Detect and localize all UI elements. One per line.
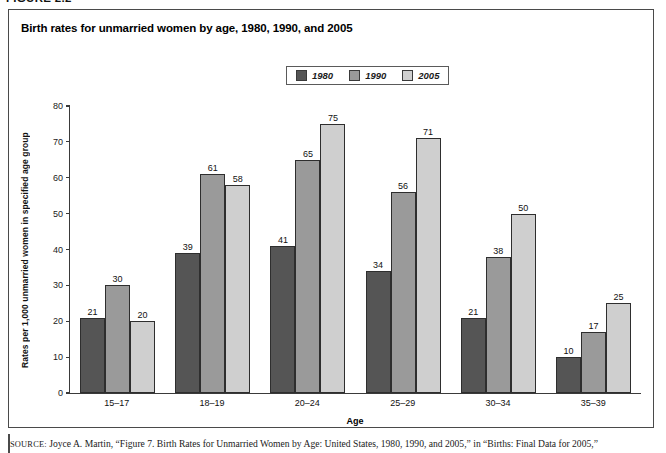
y-axis-tick: 60 bbox=[43, 173, 70, 183]
bar[interactable]: 30 bbox=[105, 285, 130, 393]
bar[interactable]: 20 bbox=[130, 321, 155, 393]
bar[interactable]: 50 bbox=[511, 214, 536, 393]
bar[interactable]: 10 bbox=[556, 357, 581, 393]
bar[interactable]: 39 bbox=[175, 253, 200, 393]
y-axis-tick-label: 60 bbox=[43, 173, 63, 183]
y-axis-tick-label: 70 bbox=[43, 137, 63, 147]
x-axis-tick-label: 20–24 bbox=[260, 398, 355, 408]
x-axis-labels: 15–1718–1920–2425–2930–3435–39 bbox=[69, 398, 641, 408]
y-axis-tick: 0 bbox=[43, 388, 70, 398]
bar[interactable]: 56 bbox=[391, 192, 416, 393]
y-axis-tick: 50 bbox=[43, 209, 70, 219]
legend-swatch-icon bbox=[349, 70, 360, 81]
y-axis-tick: 20 bbox=[43, 316, 70, 326]
y-axis-tick-label: 80 bbox=[43, 101, 63, 111]
bar[interactable]: 17 bbox=[581, 332, 606, 393]
bar-value-label: 75 bbox=[328, 113, 338, 123]
y-axis-tick-label: 40 bbox=[43, 245, 63, 255]
bar[interactable]: 58 bbox=[225, 185, 250, 393]
chart-legend: 198019902005 bbox=[286, 66, 449, 85]
x-axis-tick-label: 25–29 bbox=[355, 398, 450, 408]
legend-swatch-icon bbox=[402, 70, 413, 81]
plot-area: 01020304050607080 2130203961584165753456… bbox=[69, 106, 641, 394]
y-axis-tick: 40 bbox=[43, 245, 70, 255]
bar[interactable]: 34 bbox=[366, 271, 391, 393]
bar-value-label: 21 bbox=[468, 307, 478, 317]
y-axis-tick-label: 10 bbox=[43, 352, 63, 362]
bar[interactable]: 38 bbox=[486, 257, 511, 393]
bar[interactable]: 71 bbox=[416, 138, 441, 393]
figure-label: FIGURE 2.2 bbox=[6, 0, 72, 4]
x-axis-tick-label: 35–39 bbox=[546, 398, 641, 408]
bar[interactable]: 25 bbox=[606, 303, 631, 393]
legend-label: 1990 bbox=[365, 70, 386, 81]
bar-groups: 213020396158416575345671213850101725 bbox=[70, 106, 641, 393]
bar[interactable]: 41 bbox=[270, 246, 295, 393]
bar-value-label: 10 bbox=[563, 346, 573, 356]
x-axis-tick-label: 15–17 bbox=[69, 398, 164, 408]
y-axis-tick-label: 30 bbox=[43, 280, 63, 290]
source-kicker: SOURCE: bbox=[10, 440, 47, 449]
bar-group: 213850 bbox=[451, 106, 546, 393]
bar-value-label: 50 bbox=[518, 203, 528, 213]
bar-value-label: 38 bbox=[493, 246, 503, 256]
x-axis-title: Age bbox=[69, 416, 641, 426]
bar-group: 345671 bbox=[356, 106, 451, 393]
y-axis-tick: 10 bbox=[43, 352, 70, 362]
bar-value-label: 58 bbox=[233, 174, 243, 184]
figure-title: Birth rates for unmarried women by age, … bbox=[21, 22, 352, 34]
y-axis-tick: 70 bbox=[43, 137, 70, 147]
x-axis-tick-label: 30–34 bbox=[450, 398, 545, 408]
bar[interactable]: 61 bbox=[200, 174, 225, 393]
legend-swatch-icon bbox=[296, 70, 307, 81]
legend-entry: 1990 bbox=[349, 70, 386, 81]
bar-value-label: 65 bbox=[303, 149, 313, 159]
bar-value-label: 61 bbox=[208, 163, 218, 173]
bar-value-label: 21 bbox=[88, 307, 98, 317]
bar-group: 101725 bbox=[546, 106, 641, 393]
bar-value-label: 30 bbox=[113, 274, 123, 284]
bar-value-label: 39 bbox=[183, 242, 193, 252]
x-axis-tick-label: 18–19 bbox=[164, 398, 259, 408]
y-axis-title: Rates per 1,000 unmarried women in speci… bbox=[17, 106, 33, 394]
bar-value-label: 56 bbox=[398, 181, 408, 191]
source-note: SOURCE: Joyce A. Martin, “Figure 7. Birt… bbox=[10, 438, 660, 449]
bar-value-label: 34 bbox=[373, 260, 383, 270]
bar-value-label: 25 bbox=[613, 292, 623, 302]
bar-value-label: 41 bbox=[278, 235, 288, 245]
source-text: Joyce A. Martin, “Figure 7. Birth Rates … bbox=[49, 438, 598, 449]
chart-plot: Rates per 1,000 unmarried women in speci… bbox=[21, 106, 641, 416]
legend-label: 2005 bbox=[418, 70, 439, 81]
bar-group: 416575 bbox=[260, 106, 355, 393]
y-axis-tick-label: 50 bbox=[43, 209, 63, 219]
figure-container: Birth rates for unmarried women by age, … bbox=[8, 9, 654, 428]
bar[interactable]: 65 bbox=[295, 160, 320, 393]
bar-value-label: 17 bbox=[588, 321, 598, 331]
bar-value-label: 20 bbox=[138, 310, 148, 320]
legend-label: 1980 bbox=[312, 70, 333, 81]
bar-group: 396158 bbox=[165, 106, 260, 393]
bar-value-label: 71 bbox=[423, 127, 433, 137]
legend-entry: 2005 bbox=[402, 70, 439, 81]
y-axis-tick-label: 20 bbox=[43, 316, 63, 326]
bar[interactable]: 21 bbox=[461, 318, 486, 393]
y-axis-tick: 30 bbox=[43, 280, 70, 290]
y-axis-tick: 80 bbox=[43, 101, 70, 111]
bar-group: 213020 bbox=[70, 106, 165, 393]
bar[interactable]: 21 bbox=[80, 318, 105, 393]
bar[interactable]: 75 bbox=[320, 124, 345, 393]
y-axis-tick-label: 0 bbox=[43, 388, 63, 398]
legend-entry: 1980 bbox=[296, 70, 333, 81]
